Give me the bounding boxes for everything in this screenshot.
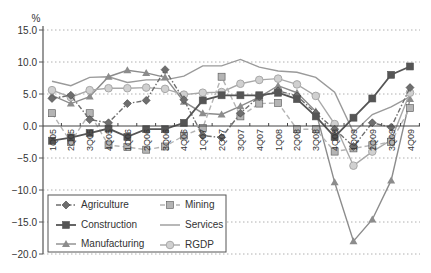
y-tick-label: −10.0 — [12, 185, 38, 196]
y-tick-label: 15.0 — [18, 25, 38, 36]
y-tick-label: 10.0 — [18, 57, 38, 68]
x-axis: 1Q052Q053Q054Q051Q062Q063Q064Q061Q072Q07… — [43, 123, 420, 151]
x-tick-label: 3Q06 — [161, 129, 171, 151]
y-tick-label: −20.0 — [12, 249, 38, 260]
x-tick-label: 4Q07 — [255, 129, 265, 151]
x-tick-label: 3Q08 — [311, 129, 321, 151]
x-tick-label: 1Q06 — [123, 129, 133, 151]
y-tick-label: −15.0 — [12, 217, 38, 228]
x-tick-label: 4Q09 — [406, 129, 416, 151]
svg-text:Services: Services — [185, 219, 223, 230]
x-tick-label: 2Q05 — [66, 129, 76, 151]
y-tick-label: −5.0 — [17, 153, 37, 164]
x-tick-label: 2Q06 — [142, 129, 152, 151]
x-tick-label: 2Q08 — [292, 129, 302, 151]
x-tick-label: 4Q05 — [104, 129, 114, 151]
svg-text:Mining: Mining — [185, 199, 214, 210]
x-tick-label: 1Q05 — [48, 129, 58, 151]
x-tick-label: 3Q07 — [236, 129, 246, 151]
svg-text:RGDP: RGDP — [185, 239, 214, 250]
x-tick-label: 3Q05 — [85, 129, 95, 151]
y-tick-label: 0.0 — [23, 121, 37, 132]
x-tick-label: 1Q08 — [274, 129, 284, 151]
line-chart: 15.010.05.00.0−5.0−10.0−15.0−20.0 % 1Q05… — [0, 0, 431, 273]
y-tick-label: 5.0 — [23, 89, 37, 100]
x-tick-label: 4Q08 — [330, 129, 340, 151]
y-axis-unit: % — [32, 13, 41, 24]
svg-text:Manufacturing: Manufacturing — [81, 238, 144, 249]
y-axis: 15.010.05.00.0−5.0−10.0−15.0−20.0 — [12, 25, 43, 260]
x-tick-label: 3Q09 — [387, 129, 397, 151]
series-agriculture — [48, 66, 414, 151]
x-tick-label: 2Q07 — [217, 129, 227, 151]
x-tick-label: 1Q07 — [198, 129, 208, 151]
x-tick-label: 2Q09 — [368, 129, 378, 151]
x-tick-label: 1Q09 — [349, 129, 359, 151]
svg-text:Construction: Construction — [81, 219, 137, 230]
chart-canvas: 15.010.05.00.0−5.0−10.0−15.0−20.0 % 1Q05… — [0, 0, 431, 273]
legend: Agriculture Mining Construction Services… — [48, 195, 226, 252]
svg-text:Agriculture: Agriculture — [81, 199, 129, 210]
x-tick-label: 4Q06 — [179, 129, 189, 151]
